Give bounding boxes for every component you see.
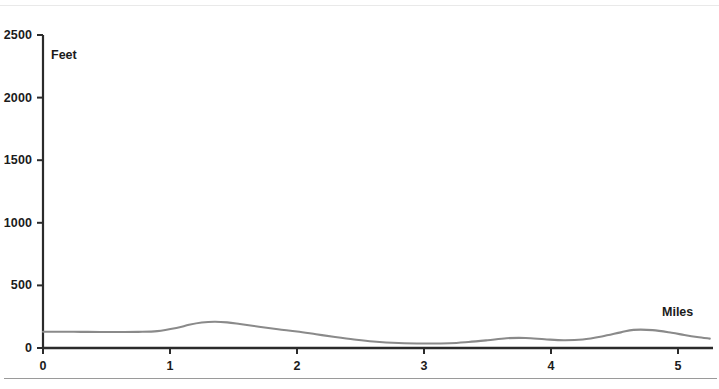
y-tick-label: 2000 — [0, 91, 32, 105]
x-tick-label: 4 — [547, 359, 554, 373]
chart-axes — [37, 35, 713, 354]
x-tick-label: 0 — [39, 359, 46, 373]
x-tick-label: 5 — [674, 359, 681, 373]
x-axis-title: Miles — [662, 305, 693, 319]
y-tick-label: 1000 — [0, 216, 32, 230]
elevation-chart-svg — [0, 0, 719, 389]
bottom-divider-rule — [4, 378, 717, 379]
x-tick-label: 2 — [293, 359, 300, 373]
y-tick-label: 0 — [0, 341, 32, 355]
chart-plot-area: 05001000150020002500 012345 Feet Miles — [0, 0, 719, 389]
y-tick-label: 2500 — [0, 28, 32, 42]
y-tick-label: 1500 — [0, 153, 32, 167]
y-tick-label: 500 — [0, 278, 32, 292]
elevation-profile-figure: 05001000150020002500 012345 Feet Miles — [0, 0, 719, 389]
y-axis-title: Feet — [51, 48, 77, 62]
x-tick-label: 3 — [420, 359, 427, 373]
x-tick-label: 1 — [166, 359, 173, 373]
chart-series — [43, 322, 710, 344]
